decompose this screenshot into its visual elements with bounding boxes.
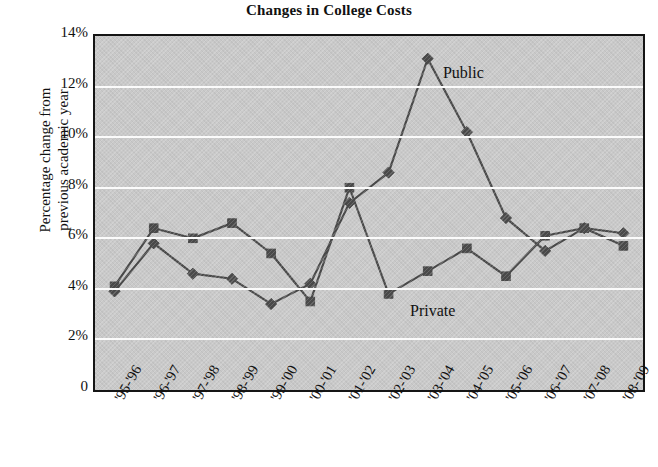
data-point-private-1 xyxy=(149,224,158,233)
data-point-private-9 xyxy=(463,244,472,253)
y-tick-label: 4% xyxy=(24,277,88,294)
chart-container: Changes in College Costs Percentage chan… xyxy=(0,0,658,467)
data-point-private-7 xyxy=(384,290,393,299)
data-point-private-3 xyxy=(228,219,237,228)
y-tick-label: 12% xyxy=(24,75,88,92)
x-axis-tick-labels: '95-'96'96-'97'97-'98'98-'99'99-'00'00-'… xyxy=(93,396,645,467)
y-tick-label: 6% xyxy=(24,226,88,243)
y-tick-label: 8% xyxy=(24,176,88,193)
data-point-private-13 xyxy=(619,242,628,251)
series-label-public: Public xyxy=(443,64,484,82)
gridline xyxy=(95,86,643,88)
series-line-private xyxy=(115,188,624,302)
data-point-public-8 xyxy=(422,53,433,64)
data-point-private-5 xyxy=(306,297,315,306)
gridline xyxy=(95,187,643,189)
data-point-public-4 xyxy=(266,298,277,309)
y-axis-tick-labels: 02%4%6%8%10%12%14% xyxy=(24,0,88,467)
y-tick-label: 10% xyxy=(24,125,88,142)
plot-area: PublicPrivate xyxy=(93,34,645,392)
gridline xyxy=(95,237,643,239)
y-tick-label: 0 xyxy=(24,378,88,395)
series-label-private: Private xyxy=(410,302,455,320)
series-lines xyxy=(95,36,643,390)
data-point-private-10 xyxy=(502,272,511,281)
data-point-private-4 xyxy=(267,249,276,258)
gridline xyxy=(95,288,643,290)
gridline xyxy=(95,136,643,138)
data-point-private-8 xyxy=(423,267,432,276)
y-tick-label: 14% xyxy=(24,24,88,41)
data-point-public-3 xyxy=(226,273,237,284)
y-tick-label: 2% xyxy=(24,327,88,344)
gridline xyxy=(95,338,643,340)
chart-title: Changes in College Costs xyxy=(0,2,658,19)
series-line-public xyxy=(115,59,624,304)
